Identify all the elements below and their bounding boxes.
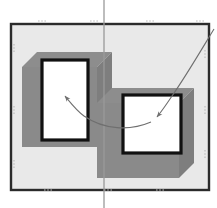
diagram-canvas — [0, 0, 217, 208]
diagram-stage — [0, 0, 217, 208]
right-window-rect[interactable] — [123, 95, 181, 153]
left-window-rect[interactable] — [42, 60, 88, 140]
